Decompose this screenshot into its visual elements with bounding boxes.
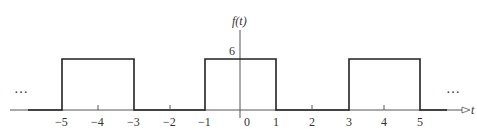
tick-label: 4	[381, 115, 387, 129]
tick-label: −5	[55, 115, 68, 129]
tick-label: 2	[309, 115, 315, 129]
t-axis-label: t	[471, 103, 475, 117]
signal-waveform	[28, 59, 447, 110]
x-tick-labels: −5 −4 −3 −2 −1 0 1 2 3 4 5	[55, 115, 423, 129]
tick-label: 3	[346, 115, 352, 129]
tick-label: 1	[273, 115, 279, 129]
ellipsis-right: …	[446, 81, 460, 96]
ellipsis-left: …	[14, 81, 28, 96]
tick-label: −2	[163, 115, 176, 129]
pulse-train-chart: t f(t) 6 −5 −4 −3 −2 −1 0 1 2 3 4 5 … …	[0, 0, 477, 136]
tick-label: −4	[91, 115, 104, 129]
f-axis-label: f(t)	[232, 14, 247, 28]
amplitude-label: 6	[229, 44, 235, 58]
tick-label: 5	[417, 115, 423, 129]
tick-label: 0	[244, 115, 250, 129]
tick-label: −3	[127, 115, 140, 129]
tick-label: −1	[198, 115, 211, 129]
t-axis-arrow-icon	[462, 107, 470, 113]
